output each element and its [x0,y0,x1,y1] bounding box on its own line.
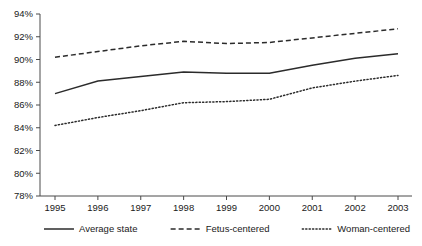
x-axis: 199519961997199819992000200120022003 [40,196,412,213]
x-tick-label: 2003 [387,202,408,213]
x-tick-label: 1999 [216,202,237,213]
line-chart: 78%80%82%84%86%88%90%92%94% 199519961997… [0,0,422,246]
y-tick-label: 94% [14,8,34,19]
legend-label: Average state [79,223,137,234]
x-tick-label: 2002 [345,202,366,213]
y-tick-label: 88% [14,77,34,88]
x-tick-label: 2000 [259,202,280,213]
y-tick-label: 84% [14,122,34,133]
y-tick-label: 92% [14,31,34,42]
legend-item[interactable]: Woman-centered [302,223,410,234]
x-tick-label: 1998 [173,202,194,213]
series-lines [55,29,398,126]
x-tick-label: 1997 [130,202,151,213]
y-tick-label: 86% [14,99,34,110]
series-line-woman-centered [55,75,398,125]
y-tick-label: 80% [14,168,34,179]
x-tick-label: 1996 [87,202,108,213]
series-line-fetus-centered [55,29,398,57]
legend-label: Woman-centered [337,223,410,234]
x-tick-label: 2001 [302,202,323,213]
y-tick-label: 82% [14,145,34,156]
legend-item[interactable]: Average state [44,223,137,234]
legend-item[interactable]: Fetus-centered [171,223,270,234]
y-tick-label: 90% [14,54,34,65]
legend-label: Fetus-centered [206,223,270,234]
chart-legend: Average stateFetus-centeredWoman-centere… [44,223,410,234]
y-axis: 78%80%82%84%86%88%90%92%94% [14,8,40,201]
x-tick-label: 1995 [44,202,65,213]
y-tick-label: 78% [14,190,34,201]
series-line-average-state [55,54,398,94]
chart-canvas: 78%80%82%84%86%88%90%92%94% 199519961997… [0,0,422,246]
